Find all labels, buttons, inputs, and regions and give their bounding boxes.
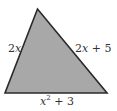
side-label-right: 2x + 5 (75, 43, 111, 54)
right-rest: + 5 (88, 42, 111, 55)
left-var: x (15, 42, 21, 55)
bottom-rest: + 3 (51, 95, 74, 108)
side-label-bottom: x2 + 3 (40, 96, 74, 107)
triangle-figure: 2x 2x + 5 x2 + 3 (0, 0, 117, 111)
right-coef: 2 (75, 42, 82, 55)
left-coef: 2 (8, 42, 15, 55)
side-label-left: 2x (8, 43, 21, 54)
